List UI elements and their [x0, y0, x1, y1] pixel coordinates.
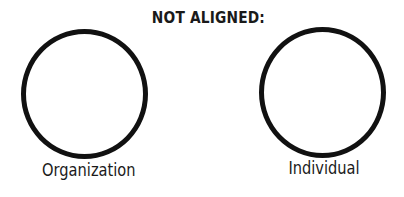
- individual-circle: [259, 27, 386, 158]
- organization-label: Organization: [32, 161, 146, 180]
- individual-label: Individual: [278, 159, 371, 178]
- organization-circle: [21, 29, 148, 159]
- diagram-title: NOT ALIGNED:: [29, 9, 388, 27]
